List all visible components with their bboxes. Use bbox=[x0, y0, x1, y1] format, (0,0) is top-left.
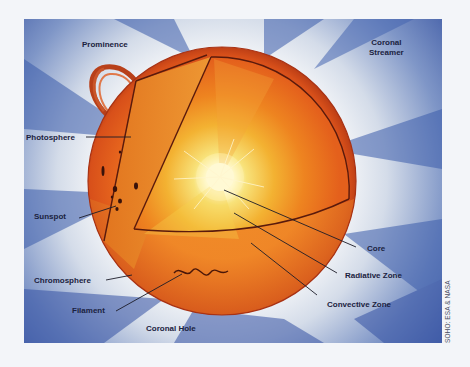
label-coronal-hole: Coronal Hole bbox=[146, 324, 196, 334]
label-sunspot: Sunspot bbox=[34, 212, 66, 222]
sun-illustration bbox=[24, 19, 442, 343]
label-chromosphere: Chromosphere bbox=[34, 276, 91, 286]
label-prominence: Prominence bbox=[82, 40, 128, 50]
label-photosphere: Photosphere bbox=[26, 133, 75, 143]
sun-structure-figure: Prominence Coronal Streamer Photosphere … bbox=[24, 19, 442, 343]
label-coronal-streamer: Coronal Streamer bbox=[369, 38, 404, 58]
label-coronal-streamer-line1: Coronal bbox=[369, 38, 404, 48]
label-convective-zone: Convective Zone bbox=[327, 300, 391, 310]
label-radiative-zone: Radiative Zone bbox=[345, 271, 402, 281]
image-credit: SOHO: ESA & NASA bbox=[443, 280, 453, 343]
label-core: Core bbox=[367, 244, 385, 254]
label-filament: Filament bbox=[72, 306, 105, 316]
page: Prominence Coronal Streamer Photosphere … bbox=[0, 0, 470, 367]
label-coronal-streamer-line2: Streamer bbox=[369, 48, 404, 58]
